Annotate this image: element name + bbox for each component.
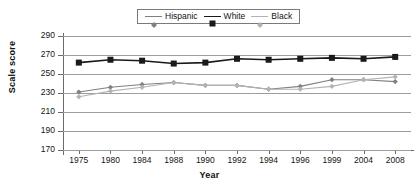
data-point xyxy=(76,94,81,99)
data-point xyxy=(108,89,113,94)
x-axis-tick-label: 1992 xyxy=(220,155,254,165)
data-point xyxy=(297,56,303,62)
data-point xyxy=(393,74,398,79)
y-axis-title: Scale score xyxy=(7,30,17,104)
data-point xyxy=(234,83,239,88)
y-axis-tick-label: 210 xyxy=(29,107,55,116)
data-point xyxy=(361,77,366,82)
y-axis-tick-label: 290 xyxy=(29,31,55,40)
x-axis-tick-label: 1996 xyxy=(283,155,317,165)
series-layer xyxy=(63,36,411,150)
data-point xyxy=(107,57,113,63)
data-point xyxy=(298,87,303,92)
data-point xyxy=(266,57,272,63)
x-axis-tick-label: 1984 xyxy=(125,155,159,165)
data-point xyxy=(393,79,398,84)
legend-label-white: White xyxy=(224,12,246,21)
data-point xyxy=(76,60,82,66)
x-axis-tick-label: 1999 xyxy=(315,155,349,165)
x-axis-title: Year xyxy=(0,170,419,180)
y-axis-tick-label: 270 xyxy=(29,50,55,59)
x-axis-tick-label: 1990 xyxy=(188,155,222,165)
legend-label-hispanic: Hispanic xyxy=(165,12,198,21)
legend-marker-hispanic-icon xyxy=(145,12,162,21)
x-axis-tick-label: 1994 xyxy=(252,155,286,165)
plot-area xyxy=(63,36,411,150)
data-point xyxy=(266,87,271,92)
y-axis-tick-label: 230 xyxy=(29,88,55,97)
y-axis-tick-label: 170 xyxy=(29,145,55,154)
legend-item-black[interactable]: Black xyxy=(251,12,292,21)
series-white xyxy=(76,54,398,67)
legend-marker-white-icon xyxy=(204,12,221,21)
legend-marker-black-icon xyxy=(251,12,268,21)
line-chart: Hispanic White B xyxy=(0,0,419,190)
data-point xyxy=(361,56,367,62)
data-point xyxy=(76,89,81,94)
gridline xyxy=(63,150,411,151)
x-axis-tick-label: 2008 xyxy=(378,155,412,165)
data-point xyxy=(202,60,208,66)
data-point xyxy=(234,56,240,62)
data-point xyxy=(329,55,335,61)
chart-legend: Hispanic White B xyxy=(137,9,300,24)
data-point xyxy=(139,85,144,90)
data-point xyxy=(171,61,177,67)
data-point xyxy=(329,77,334,82)
data-point xyxy=(139,58,145,64)
x-axis-tick-label: 2004 xyxy=(347,155,381,165)
data-point xyxy=(329,84,334,89)
y-axis-tick-label: 250 xyxy=(29,69,55,78)
legend-item-hispanic[interactable]: Hispanic xyxy=(145,12,198,21)
x-axis-tick-label: 1975 xyxy=(62,155,96,165)
data-point xyxy=(171,80,176,85)
series-black xyxy=(76,74,398,99)
data-point xyxy=(203,83,208,88)
y-axis-tick-label: 190 xyxy=(29,126,55,135)
legend-label-black: Black xyxy=(271,12,292,21)
x-axis-tick-label: 1988 xyxy=(157,155,191,165)
x-axis-tick-label: 1980 xyxy=(93,155,127,165)
data-point xyxy=(392,54,398,60)
legend-item-white[interactable]: White xyxy=(204,12,246,21)
